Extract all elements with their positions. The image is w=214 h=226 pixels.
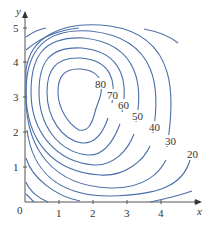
x-tick-4: 4 <box>158 207 164 219</box>
y-tick-3: 3 <box>13 91 19 103</box>
y-axis-arrow-icon <box>22 11 28 18</box>
x-tick-1: 1 <box>56 207 62 219</box>
label-20: 20 <box>187 148 199 160</box>
x-tick-2: 2 <box>90 207 96 219</box>
contour-20-top <box>144 29 178 43</box>
contour-plot: 0 1 2 3 4 x 1 2 3 4 5 y 80 <box>0 0 214 226</box>
contour-60 <box>39 48 124 155</box>
contour-lines <box>26 25 192 202</box>
contour-1-corner <box>26 194 34 202</box>
label-70: 70 <box>107 89 119 101</box>
x-tick-3: 3 <box>124 207 130 219</box>
level-labels: 80 70 60 50 40 30 20 <box>94 78 200 160</box>
contour-10-top <box>26 28 46 37</box>
label-30: 30 <box>165 135 177 147</box>
label-60: 60 <box>118 99 130 111</box>
label-50: 50 <box>132 110 144 122</box>
label-80: 80 <box>95 78 107 90</box>
label-40: 40 <box>149 121 161 133</box>
y-tick-1: 1 <box>13 161 19 173</box>
y-axis-label: y <box>15 5 21 17</box>
contour-30 <box>26 25 171 188</box>
x-axis-label: x <box>196 205 202 217</box>
y-tick-5: 5 <box>13 22 19 34</box>
contour-10-bottomright <box>150 191 192 202</box>
y-tick-2: 2 <box>13 126 19 138</box>
origin-label: 0 <box>17 204 23 216</box>
contour-5-bottomleft <box>26 182 48 202</box>
contour-40 <box>26 31 156 175</box>
y-tick-4: 4 <box>13 56 19 68</box>
